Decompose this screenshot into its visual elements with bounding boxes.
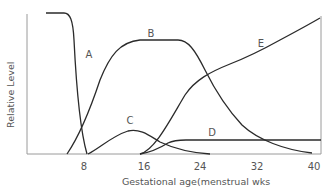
x-axis-title: Gestational age(menstrual wks [122, 176, 270, 187]
curve-early-drop [46, 13, 87, 154]
label-E: E [258, 38, 264, 49]
label-C: C [127, 115, 134, 126]
x-tick-40: 40 [308, 161, 321, 172]
x-tick-32: 32 [251, 161, 264, 172]
curve-A-B [67, 40, 312, 154]
label-D: D [208, 127, 216, 138]
label-B: B [148, 28, 155, 39]
x-tick-16: 16 [138, 161, 151, 172]
label-A: A [86, 49, 93, 60]
curve-C [88, 130, 210, 154]
curve-D [140, 140, 321, 154]
chart: Relative Level 8 16 24 32 40 Gestational… [0, 0, 335, 187]
x-tick-8: 8 [81, 161, 87, 172]
y-axis-title: Relative Level [5, 62, 16, 128]
x-tick-24: 24 [194, 161, 207, 172]
curve-E [140, 18, 320, 154]
